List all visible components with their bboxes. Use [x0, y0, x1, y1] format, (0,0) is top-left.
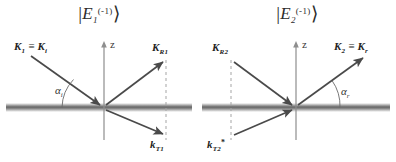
label-transmitted-sub: T1 — [156, 145, 164, 153]
label-incident-K2: K — [38, 40, 46, 52]
label-incident-sub: 1 — [22, 47, 26, 55]
label-incident-equiv: ≡ — [28, 40, 34, 52]
label-KR2-sub: R2 — [220, 48, 229, 56]
z-axis-label-left: z — [110, 38, 115, 50]
incident-vector-left — [31, 56, 100, 105]
label-Kr: K — [358, 40, 366, 52]
label-outgoing-right: K2 ≡ Kr — [334, 40, 368, 55]
label-incident-K: K — [14, 40, 22, 52]
label-K2-equiv: ≡ — [348, 40, 354, 52]
label-kT2-sub: T2 — [213, 145, 221, 153]
label-KR2: K — [212, 41, 220, 53]
angle-sub-left: i — [61, 91, 63, 99]
panel-left-graphics — [0, 0, 198, 162]
panel-left: |E1(-1)⟩ — [0, 0, 198, 162]
label-Kr-sub: r — [365, 47, 368, 55]
wavevector-diagram: |E1(-1)⟩ — [0, 0, 396, 162]
outgoing-vector-right — [298, 58, 363, 105]
transmitted-vector-left — [106, 110, 163, 134]
angle-sub-right: r — [347, 92, 350, 100]
label-reflected-sub: R1 — [160, 48, 169, 56]
z-axis-arrowhead-left — [101, 41, 107, 48]
label-K2-sub: 2 — [342, 47, 346, 55]
panel-right: |E2(-1)⟩ — [198, 0, 396, 162]
z-axis-arrowhead-right — [293, 41, 299, 48]
label-incoming-lower-right: kT2* — [207, 138, 225, 153]
label-transmitted-left: kT1 — [150, 138, 164, 153]
label-incoming-upper-right: KR2 — [212, 41, 228, 56]
angle-label-right: αr — [341, 85, 350, 100]
label-incident-sub2: i — [45, 47, 47, 55]
z-axis-label-right: z — [302, 38, 307, 50]
label-reflected-K: K — [152, 41, 160, 53]
label-kT2-prime: * — [221, 138, 225, 147]
angle-label-left: αi — [55, 84, 63, 99]
incoming-upper-vector-right — [234, 62, 292, 105]
label-K2: K — [334, 40, 342, 52]
label-reflected-left: KR1 — [152, 41, 168, 56]
incoming-lower-vector-right — [234, 110, 292, 135]
reflected-vector-left — [106, 62, 163, 105]
panel-right-graphics — [198, 0, 396, 162]
label-incident-left: K1 ≡ Ki — [14, 40, 47, 55]
